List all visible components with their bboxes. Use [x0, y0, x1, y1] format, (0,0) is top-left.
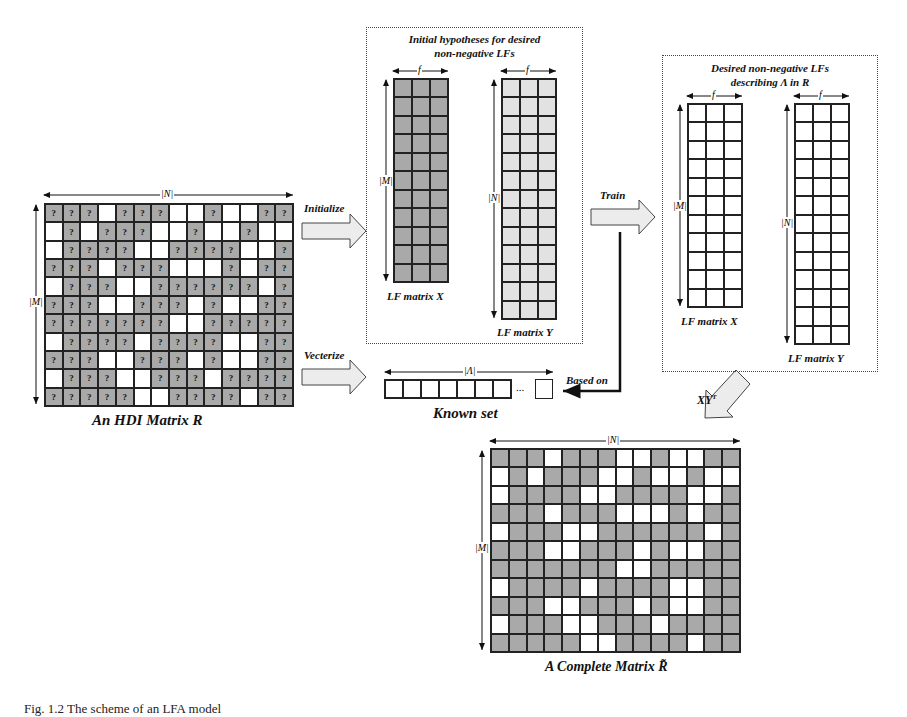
matrix-cell — [412, 116, 430, 134]
matrix-cell — [724, 215, 742, 233]
matrix-cell — [45, 241, 63, 259]
matrix-cell: ? — [151, 314, 169, 332]
matrix-cell: ? — [98, 369, 116, 387]
complete-height-label: |M| — [474, 542, 490, 553]
matrix-cell — [580, 449, 598, 467]
matrix-cell — [795, 104, 813, 122]
matrix-cell: ? — [169, 351, 187, 369]
matrix-cell — [222, 333, 240, 351]
matrix-cell: ? — [63, 259, 81, 277]
matrix-cell — [151, 241, 169, 259]
matrix-cell — [412, 171, 430, 189]
matrix-cell — [724, 104, 742, 122]
matrix-cell — [98, 259, 116, 277]
matrix-cell — [598, 560, 616, 578]
matrix-cell — [134, 241, 152, 259]
matrix-cell — [704, 634, 722, 652]
initial-box-title-line1: Initial hypotheses for desired — [366, 32, 583, 46]
matrix-cell — [706, 178, 724, 196]
matrix-cell: ? — [63, 351, 81, 369]
matrix-cell — [509, 541, 527, 559]
matrix-cell — [724, 289, 742, 307]
vectorize-arrow — [302, 360, 366, 394]
product-superscript: T — [712, 393, 716, 401]
matrix-cell — [633, 541, 651, 559]
matrix-cell: ? — [63, 333, 81, 351]
matrix-cell — [394, 79, 412, 97]
matrix-cell — [562, 634, 580, 652]
matrix-cell — [669, 634, 687, 652]
matrix-cell — [831, 326, 849, 344]
matrix-cell — [240, 388, 258, 406]
matrix-cell — [813, 104, 831, 122]
matrix-cell — [687, 449, 705, 467]
matrix-cell: ? — [63, 241, 81, 259]
matrix-cell — [704, 578, 722, 596]
matrix-cell — [669, 597, 687, 615]
matrix-cell: ? — [204, 333, 222, 351]
matrix-cell: ? — [258, 333, 276, 351]
matrix-cell — [527, 449, 545, 467]
matrix-cell: ? — [151, 296, 169, 314]
matrix-cell: ? — [275, 296, 293, 314]
matrix-cell — [633, 467, 651, 485]
matrix-cell: ? — [63, 388, 81, 406]
matrix-cell — [722, 541, 740, 559]
initialize-label: Initialize — [304, 202, 344, 214]
matrix-cell: ? — [80, 351, 98, 369]
matrix-cell — [831, 252, 849, 270]
matrix-cell — [669, 615, 687, 633]
matrix-cell — [580, 486, 598, 504]
matrix-cell — [724, 178, 742, 196]
matrix-cell — [704, 523, 722, 541]
matrix-cell — [831, 196, 849, 214]
figure-caption: Fig. 1.2 The scheme of an LFA model — [24, 701, 221, 717]
matrix-cell — [795, 122, 813, 140]
matrix-cell — [187, 296, 205, 314]
matrix-cell — [706, 233, 724, 251]
matrix-cell — [527, 504, 545, 522]
matrix-cell — [187, 351, 205, 369]
matrix-cell — [187, 204, 205, 222]
matrix-cell — [598, 597, 616, 615]
matrix-cell — [430, 245, 448, 263]
matrix-cell — [616, 615, 634, 633]
matrix-cell — [598, 486, 616, 504]
matrix-cell — [687, 467, 705, 485]
matrix-cell — [831, 104, 849, 122]
matrix-cell — [412, 153, 430, 171]
matrix-cell: ? — [45, 351, 63, 369]
matrix-cell: ? — [80, 314, 98, 332]
matrix-cell — [669, 578, 687, 596]
matrix-cell — [527, 597, 545, 615]
matrix-cell — [724, 196, 742, 214]
matrix-cell — [688, 104, 706, 122]
matrix-cell — [831, 122, 849, 140]
matrix-cell: ? — [240, 277, 258, 295]
matrix-cell — [706, 196, 724, 214]
matrix-cell — [722, 597, 740, 615]
matrix-cell — [722, 449, 740, 467]
init-x-m-label: |M| — [378, 175, 394, 186]
matrix-cell — [509, 449, 527, 467]
matrix-cell — [831, 215, 849, 233]
matrix-cell — [538, 245, 556, 263]
matrix-cell — [520, 227, 538, 245]
matrix-cell — [669, 449, 687, 467]
matrix-cell — [562, 504, 580, 522]
init-y-f-label: f — [525, 64, 530, 75]
matrix-cell — [394, 97, 412, 115]
matrix-cell — [502, 116, 520, 134]
known-set-ellipsis: ... — [516, 381, 524, 393]
matrix-cell — [704, 560, 722, 578]
matrix-cell — [45, 369, 63, 387]
matrix-cell — [475, 380, 493, 398]
matrix-cell: ? — [204, 241, 222, 259]
matrix-cell — [706, 215, 724, 233]
matrix-cell — [795, 233, 813, 251]
matrix-cell — [580, 578, 598, 596]
matrix-cell: ? — [258, 204, 276, 222]
matrix-cell — [562, 560, 580, 578]
matrix-cell — [169, 204, 187, 222]
matrix-cell: ? — [116, 388, 134, 406]
